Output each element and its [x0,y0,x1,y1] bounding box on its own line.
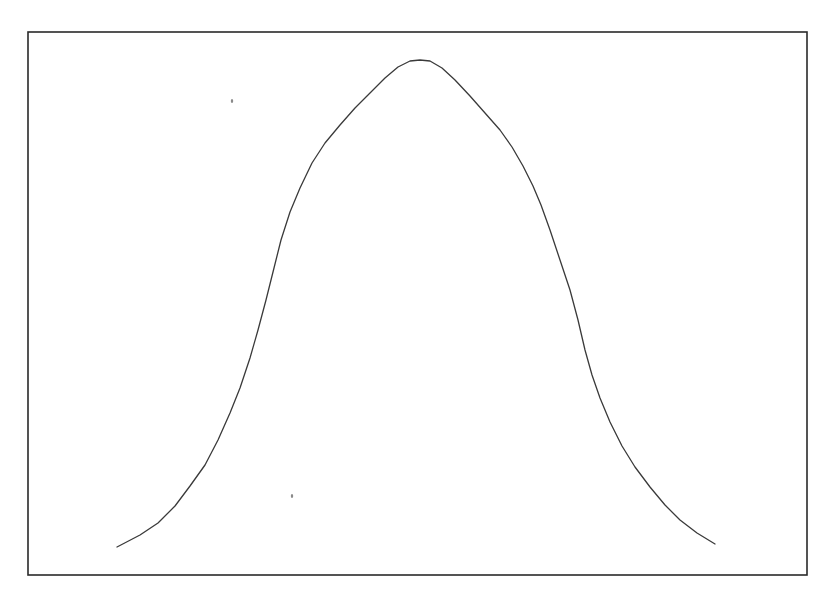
scan-specks [231,99,293,498]
bell-curve [117,60,715,547]
speck [231,99,233,103]
speck [291,494,293,498]
bell-curve-figure [0,0,832,600]
figure-frame [28,32,807,575]
